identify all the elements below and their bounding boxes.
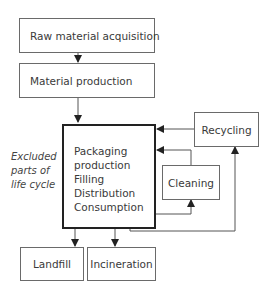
annotation-line: parts of xyxy=(11,164,57,178)
node-incineration: Incineration xyxy=(87,247,156,281)
node-label: Packaging xyxy=(74,144,144,158)
node-label: Raw material acquisition xyxy=(30,30,160,42)
node-label: Filling xyxy=(74,172,144,186)
node-label: Incineration xyxy=(90,258,152,270)
annotation-line: Excluded xyxy=(11,150,57,164)
node-label: Distribution xyxy=(74,186,144,200)
node-raw-material-acquisition: Raw material acquisition xyxy=(19,18,155,53)
node-label: Consumption xyxy=(74,200,144,214)
node-cleaning: Cleaning xyxy=(162,165,220,200)
node-material-production: Material production xyxy=(19,63,155,98)
annotation-line: life cycle xyxy=(11,178,57,192)
excluded-annotation: Excluded parts of life cycle xyxy=(11,150,57,192)
node-label: production xyxy=(74,158,144,172)
node-label: Landfill xyxy=(33,258,71,270)
node-label: Cleaning xyxy=(168,177,214,189)
node-label: Material production xyxy=(30,75,132,87)
node-label: Recycling xyxy=(201,124,251,136)
node-landfill: Landfill xyxy=(20,247,84,281)
node-main-stage: Packaging production Filling Distributio… xyxy=(62,124,156,229)
node-recycling: Recycling xyxy=(194,112,259,147)
